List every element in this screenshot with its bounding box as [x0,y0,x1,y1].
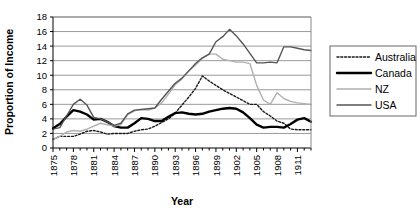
x-axis-tick-label: 1905 [251,155,262,176]
x-axis-ticks [53,148,311,152]
legend-label-australia: Australia [375,51,416,63]
y-axis-tick-label: 6 [42,99,47,110]
x-axis-tick-label: 1890 [149,155,160,176]
x-axis-tick-label: 1902 [231,155,242,176]
y-axis-title: Proportion of Income [3,29,15,135]
plot-area-background [53,17,311,148]
y-axis-tick-labels: 024681012141618 [36,11,47,153]
chart-legend: AustraliaCanadaNZUSA [330,46,416,116]
legend-label-nz: NZ [375,83,390,95]
x-axis-tick-label: 1875 [48,155,59,176]
x-axis-tick-label: 1896 [190,155,201,176]
x-axis-tick-label: 1884 [109,155,120,176]
y-axis-tick-label: 18 [36,11,47,22]
y-axis-tick-label: 12 [36,55,47,66]
legend-label-canada: Canada [375,67,412,79]
x-axis-tick-label: 1878 [68,155,79,176]
y-axis-tick-label: 0 [42,142,47,153]
y-axis-tick-label: 2 [42,128,47,139]
legend-label-usa: USA [375,99,397,111]
x-axis-tick-label: 1908 [272,155,283,176]
line-chart: 024681012141618 187518781881188418871890… [0,0,420,212]
y-axis-tick-label: 4 [42,113,47,124]
x-axis-tick-label: 1893 [170,155,181,176]
y-axis-tick-label: 14 [36,41,47,52]
y-axis-tick-label: 10 [36,70,47,81]
y-axis-tick-label: 16 [36,26,47,37]
x-axis-title: Year [171,195,193,207]
x-axis-tick-label: 1887 [129,155,140,176]
x-axis-tick-label: 1899 [211,155,222,176]
x-axis-tick-labels: 1875187818811884188718901893189618991902… [48,155,303,176]
x-axis-tick-label: 1911 [292,155,303,175]
x-axis-tick-label: 1881 [88,155,99,176]
chart-container: 024681012141618 187518781881188418871890… [0,0,420,212]
y-axis-tick-label: 8 [42,84,47,95]
